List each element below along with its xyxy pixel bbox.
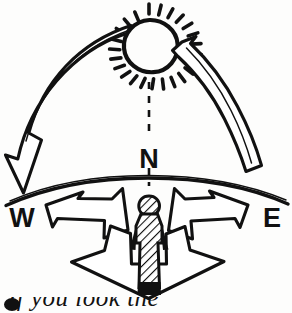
label-north: N <box>139 144 159 174</box>
caption-clipped-row: If you look the <box>0 297 292 313</box>
sun-disc-icon <box>124 20 178 72</box>
label-east: E <box>263 203 281 233</box>
figure-canvas: N W E <box>0 0 292 313</box>
label-west: W <box>9 203 35 233</box>
sun-path-arrow-east <box>173 37 262 172</box>
sun-compass-figure: N W E If you look the <box>0 0 292 313</box>
caption-text: If you look the <box>8 297 159 312</box>
